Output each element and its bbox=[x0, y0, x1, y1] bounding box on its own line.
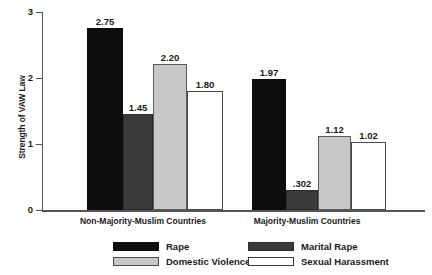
y-tick-label-2: 2 bbox=[28, 72, 33, 84]
legend-swatch-rape-icon bbox=[113, 242, 159, 251]
legend-column-right: Marital Rape Sexual Harassment bbox=[248, 239, 389, 269]
y-axis-title: Strength of VAW Law bbox=[17, 37, 27, 197]
bar-value-g2-sexual-harassment: 1.02 bbox=[359, 130, 378, 141]
bar-g1-domestic-violence: 2.20 bbox=[153, 64, 187, 210]
bar-value-g2-domestic-violence: 1.12 bbox=[325, 124, 344, 135]
y-tick-label-0: 0 bbox=[28, 204, 33, 216]
legend-label-marital-rape: Marital Rape bbox=[301, 241, 358, 252]
legend-label-domestic-violence: Domestic Violence bbox=[166, 256, 250, 267]
legend-item-sexual-harassment: Sexual Harassment bbox=[248, 254, 389, 269]
bar-g2-domestic-violence: 1.12 bbox=[318, 136, 351, 210]
legend-swatch-marital-rape-icon bbox=[248, 242, 294, 251]
legend-label-sexual-harassment: Sexual Harassment bbox=[301, 256, 389, 267]
bar-g1-sexual-harassment: 1.80 bbox=[187, 91, 223, 210]
bar-value-g1-marital-rape: 1.45 bbox=[129, 102, 148, 113]
bar-value-g1-domestic-violence: 2.20 bbox=[161, 52, 180, 63]
legend-item-domestic-violence: Domestic Violence bbox=[113, 254, 250, 269]
y-tick-0: 0 bbox=[36, 210, 43, 211]
bar-g2-sexual-harassment: 1.02 bbox=[351, 142, 386, 210]
legend: Rape Domestic Violence Marital Rape Sexu… bbox=[0, 239, 432, 271]
bar-value-g1-sexual-harassment: 1.80 bbox=[196, 79, 215, 90]
y-tick-label-1: 1 bbox=[28, 138, 33, 150]
bar-g2-marital-rape: .302 bbox=[286, 190, 318, 210]
legend-column-left: Rape Domestic Violence bbox=[113, 239, 250, 269]
vaw-law-bar-chart: Strength of VAW Law 3 2 1 0 2.75 1.45 2.… bbox=[0, 0, 432, 275]
legend-swatch-domestic-violence-icon bbox=[113, 257, 159, 266]
plot-area: 3 2 1 0 2.75 1.45 2.20 1.80 1.97 .302 bbox=[42, 12, 425, 211]
y-tick-label-3: 3 bbox=[28, 6, 33, 18]
bar-g1-rape: 2.75 bbox=[87, 28, 123, 210]
legend-item-marital-rape: Marital Rape bbox=[248, 239, 389, 254]
y-tick-2: 2 bbox=[36, 78, 43, 79]
legend-item-rape: Rape bbox=[113, 239, 250, 254]
bar-g1-marital-rape: 1.45 bbox=[123, 114, 153, 210]
legend-label-rape: Rape bbox=[166, 241, 189, 252]
group-label-non-majority-muslim: Non-Majority-Muslim Countries bbox=[63, 216, 223, 226]
bar-value-g1-rape: 2.75 bbox=[96, 16, 115, 27]
group-label-majority-muslim: Majority-Muslim Countries bbox=[237, 216, 377, 226]
y-tick-3: 3 bbox=[36, 12, 43, 13]
legend-swatch-sexual-harassment-icon bbox=[248, 257, 294, 266]
bar-value-g2-marital-rape: .302 bbox=[293, 178, 312, 189]
bar-g2-rape: 1.97 bbox=[252, 79, 286, 210]
bar-value-g2-rape: 1.97 bbox=[260, 67, 279, 78]
y-tick-1: 1 bbox=[36, 144, 43, 145]
x-axis-line bbox=[42, 210, 425, 212]
y-axis-line bbox=[42, 12, 43, 211]
